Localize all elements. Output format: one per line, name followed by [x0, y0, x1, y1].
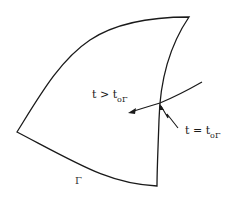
- label-at-boundary: t = toΓ: [185, 124, 221, 140]
- label-after-crossing: t > toΓ: [92, 88, 128, 104]
- region-diagram: t > toΓ t = toΓ Γ: [0, 0, 241, 198]
- trajectory-curve: [131, 82, 202, 112]
- pointer-arrow: [161, 106, 178, 128]
- label-boundary-gamma: Γ: [75, 175, 82, 186]
- trajectory-arrowhead-icon: [128, 108, 136, 114]
